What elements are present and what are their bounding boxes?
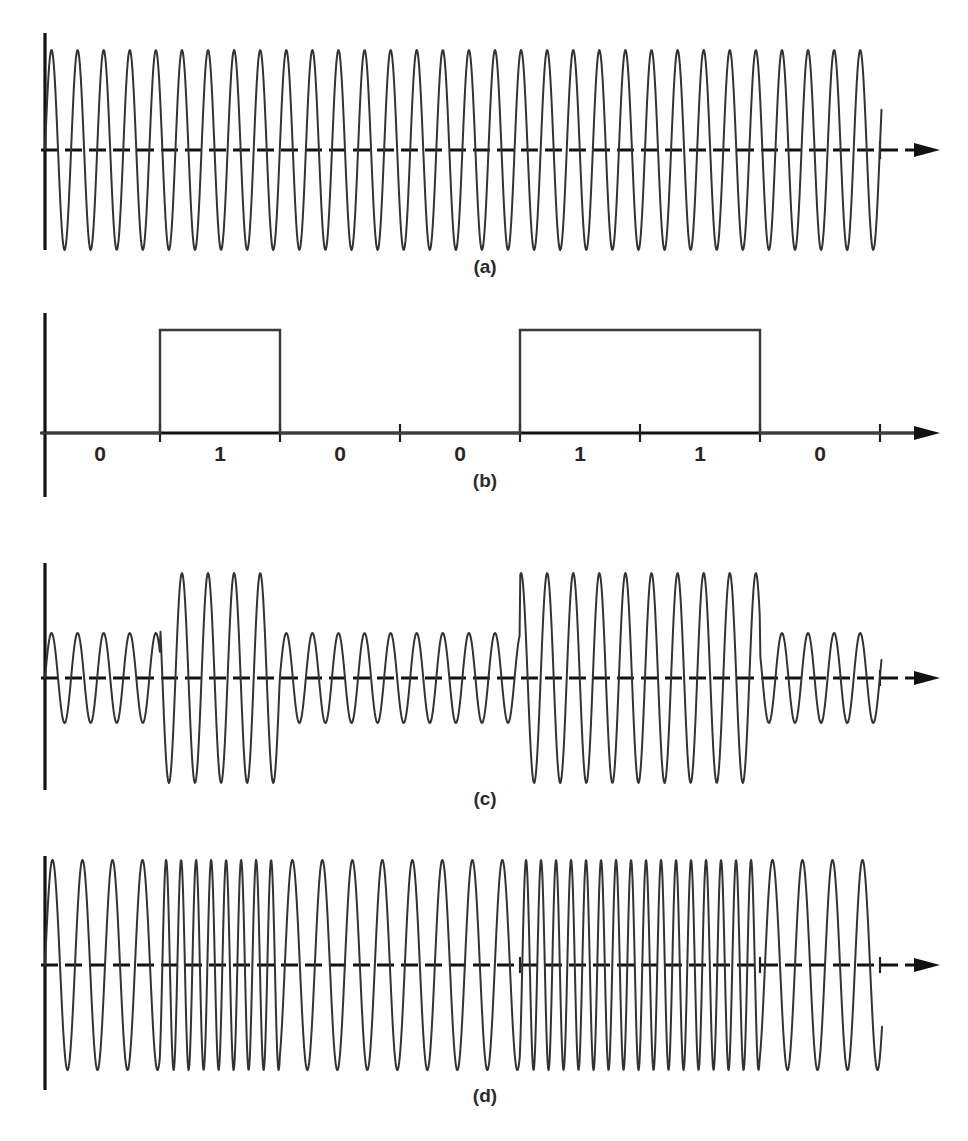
bit-label-1: 1	[200, 442, 240, 466]
modulation-figure: (a) 0100110 (b) (c) (d)	[0, 0, 968, 1141]
nrz-pulse-train	[40, 330, 914, 433]
panel-label-b: (b)	[445, 470, 525, 492]
panel-ask	[0, 540, 968, 820]
bit-label-4: 1	[560, 442, 600, 466]
axis-arrow-icon	[914, 426, 940, 440]
fsk-waveform-plot	[0, 840, 968, 1105]
bit-label-3: 0	[440, 442, 480, 466]
ask-waveform-plot	[0, 540, 968, 820]
bit-label-2: 0	[320, 442, 360, 466]
axis-arrow-icon	[914, 143, 940, 157]
bit-label-5: 1	[680, 442, 720, 466]
panel-label-c: (c)	[445, 788, 525, 810]
panel-label-d: (d)	[445, 1085, 525, 1107]
axis-arrow-icon	[914, 958, 940, 972]
bit-label-6: 0	[800, 442, 840, 466]
panel-label-a: (a)	[445, 256, 525, 278]
bit-label-0: 0	[80, 442, 120, 466]
panel-fsk	[0, 840, 968, 1105]
panel-carrier	[0, 0, 968, 290]
carrier-waveform-plot	[0, 0, 968, 290]
axis-arrow-icon	[914, 671, 940, 685]
